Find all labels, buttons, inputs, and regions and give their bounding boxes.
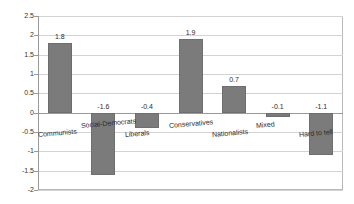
bar-chart: 2.521.510.50-0.5-1-1.5-2 1.8-1.6-0.41.90… — [0, 0, 354, 204]
value-label: -0.4 — [127, 103, 167, 111]
y-tick-label: -1 — [4, 147, 34, 155]
value-label: 1.8 — [40, 33, 80, 41]
bar — [48, 43, 72, 113]
bar — [222, 86, 246, 113]
y-tick-label: -1.5 — [4, 167, 34, 175]
gridline — [38, 190, 343, 191]
value-label: -1.1 — [301, 103, 341, 111]
y-tick-mark — [34, 190, 38, 191]
category-label: Liberals — [125, 129, 150, 139]
y-tick-label: -2 — [4, 186, 34, 194]
bar — [135, 113, 159, 128]
category-label: Mixed — [255, 120, 274, 130]
y-tick-label: 2 — [4, 31, 34, 39]
y-tick-label: 2.5 — [4, 12, 34, 20]
y-tick-label: 0.5 — [4, 89, 34, 97]
value-label: 1.9 — [171, 29, 211, 37]
value-label: 0.7 — [214, 76, 254, 84]
y-tick-label: 0 — [4, 109, 34, 117]
y-tick-label: 1 — [4, 70, 34, 78]
value-label: -1.6 — [83, 103, 123, 111]
y-tick-label: -0.5 — [4, 128, 34, 136]
y-tick-label: 1.5 — [4, 51, 34, 59]
bar — [179, 39, 203, 112]
bar — [266, 113, 290, 117]
value-label: -0.1 — [258, 103, 298, 111]
